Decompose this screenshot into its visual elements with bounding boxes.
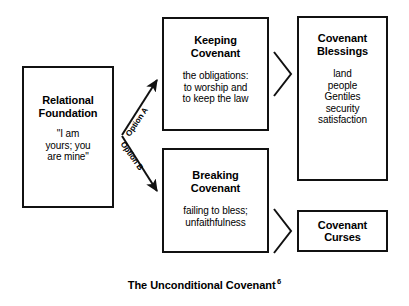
box-breaking-covenant: Breaking Covenant failing to bless; unfa… <box>162 148 269 253</box>
box-covenant-curses: Covenant Curses <box>297 210 388 252</box>
box-covenant-blessings-title: Covenant Blessings <box>317 32 368 57</box>
box-covenant-blessings: Covenant Blessings land people Gentiles … <box>297 16 388 181</box>
chevron-keeping-to-blessings <box>274 52 291 96</box>
chevron-breaking-to-curses <box>274 209 291 253</box>
box-keeping-covenant-title: Keeping Covenant <box>191 34 240 59</box>
box-keeping-covenant: Keeping Covenant the obligations: to wor… <box>162 17 269 131</box>
box-keeping-covenant-body: the obligations: to worship and to keep … <box>183 70 249 105</box>
box-breaking-covenant-body: failing to bless; unfaithfulness <box>183 205 247 228</box>
option-a-label: Option A <box>124 106 150 138</box>
box-relational-foundation-title: Relational Foundation <box>39 94 98 119</box>
box-covenant-curses-title: Covenant Curses <box>318 219 367 244</box>
diagram-caption: The Unconditional Covenant6 <box>0 277 409 291</box>
box-relational-foundation: Relational Foundation "I am yours; you a… <box>22 66 114 208</box>
diagram-caption-footnote: 6 <box>277 277 281 286</box>
option-b-label: Option B <box>119 140 145 172</box>
box-relational-foundation-body: "I am yours; you are mine" <box>45 128 90 163</box>
diagram-canvas: Option A Option B Relational Foundation … <box>0 0 409 306</box>
diagram-caption-text: The Unconditional Covenant <box>128 279 276 291</box>
box-breaking-covenant-title: Breaking Covenant <box>191 169 240 194</box>
box-covenant-blessings-body: land people Gentiles security satisfacti… <box>318 68 367 126</box>
